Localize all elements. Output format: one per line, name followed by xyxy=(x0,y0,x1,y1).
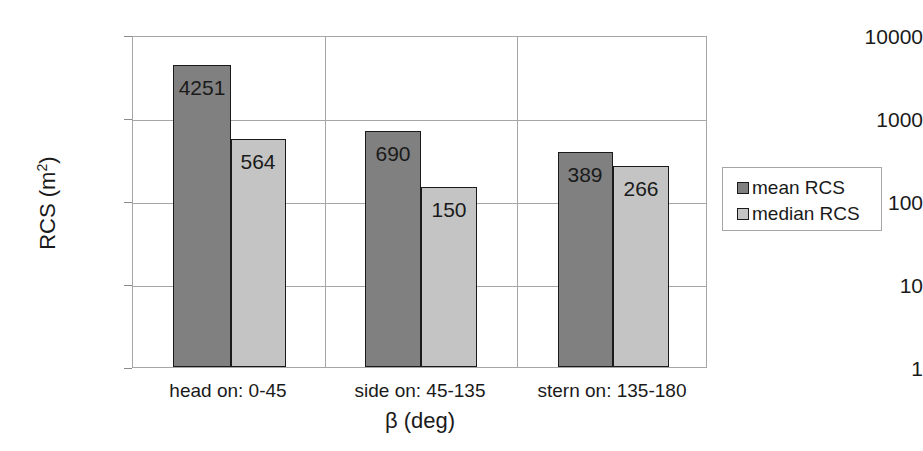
chart-legend: mean RCS median RCS xyxy=(722,167,882,231)
y-tick-mark-10000 xyxy=(124,36,132,37)
y-tick-label-10000: 10000 xyxy=(813,26,923,47)
bar-value-stern-on-mean: 389 xyxy=(567,164,602,185)
x-tick-label-head-on: head on: 0-45 xyxy=(169,381,286,401)
y-tick-mark-100 xyxy=(124,202,132,203)
legend-label-mean-rcs: mean RCS xyxy=(752,178,845,198)
y-axis-title: RCS (m2) xyxy=(30,103,60,303)
legend-label-median-rcs: median RCS xyxy=(752,204,860,224)
y-tick-label-1: 1 xyxy=(813,358,923,379)
y-tick-label-1000: 1000 xyxy=(813,109,923,130)
legend-swatch-mean-icon xyxy=(737,182,749,194)
bar-value-head-on-median: 564 xyxy=(240,151,275,172)
category-divider-2 xyxy=(517,37,518,367)
bar-value-head-on-mean: 4251 xyxy=(179,77,226,98)
bar-value-side-on-median: 150 xyxy=(431,199,466,220)
bar-value-side-on-mean: 690 xyxy=(375,143,410,164)
legend-item-median-rcs[interactable]: median RCS xyxy=(737,202,881,226)
legend-swatch-median-icon xyxy=(737,208,749,220)
category-divider-1 xyxy=(325,37,326,367)
y-axis-title-exponent: 2 xyxy=(34,164,50,172)
y-tick-mark-1 xyxy=(124,368,132,369)
y-tick-mark-1000 xyxy=(124,119,132,120)
x-axis-title: β (deg) xyxy=(0,409,840,433)
y-axis-title-text: RCS (m xyxy=(35,172,60,250)
x-tick-label-side-on: side on: 45-135 xyxy=(355,381,486,401)
bar-head-on-mean[interactable] xyxy=(173,65,231,367)
plot-area: 4251 564 690 150 389 266 xyxy=(132,36,707,368)
legend-item-mean-rcs[interactable]: mean RCS xyxy=(737,176,881,200)
bar-head-on-median[interactable] xyxy=(231,139,286,367)
y-axis-title-close: ) xyxy=(35,156,60,163)
bar-side-on-mean[interactable] xyxy=(365,131,421,367)
bar-value-stern-on-median: 266 xyxy=(623,178,658,199)
y-tick-label-10: 10 xyxy=(813,275,923,296)
rcs-bar-chart-figure: 10000 1000 100 10 1 RCS (m2) 4251 564 69… xyxy=(0,0,923,451)
y-tick-mark-10 xyxy=(124,285,132,286)
x-tick-label-stern-on: stern on: 135-180 xyxy=(538,381,687,401)
